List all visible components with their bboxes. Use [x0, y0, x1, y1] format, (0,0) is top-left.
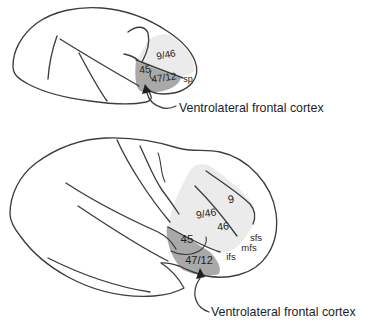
human-label-sulcus-mfs: mfs	[241, 242, 257, 253]
monkey-label-area-45: 45	[138, 62, 151, 76]
human-label-area-47-12: 47/12	[185, 254, 213, 266]
brain-figure: 9/46 45 47/12 sp Ventrolateral frontal c…	[0, 0, 381, 334]
human-caption: Ventrolateral frontal cortex	[211, 305, 356, 319]
human-label-sulcus-ifs: ifs	[226, 251, 236, 262]
human-label-area-45: 45	[181, 233, 194, 245]
monkey-caption: Ventrolateral frontal cortex	[179, 101, 324, 115]
human-label-area-46: 46	[216, 219, 229, 233]
monkey-label-sulcus-sp: sp	[183, 74, 193, 84]
